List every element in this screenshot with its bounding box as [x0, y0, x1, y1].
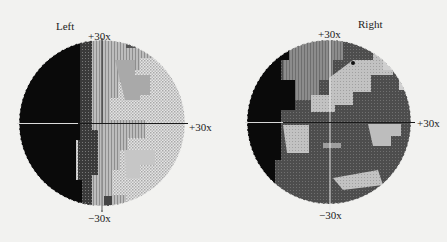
left-top-axis-label: +30x: [88, 31, 111, 42]
right-right-axis-label: +30x: [417, 118, 440, 129]
left-visual-field-panel: Left +30x +30x −30x: [0, 0, 223, 242]
right-top-axis-label: +30x: [318, 29, 341, 40]
left-panel-title: Left: [56, 21, 74, 32]
left-right-axis-label: +30x: [189, 122, 212, 133]
right-visual-field-panel: Right +30x +30x −30x: [223, 0, 447, 242]
right-panel-title: Right: [358, 19, 382, 30]
right-bottom-axis-label: −30x: [319, 210, 342, 221]
left-bottom-axis-label: −30x: [88, 213, 111, 224]
